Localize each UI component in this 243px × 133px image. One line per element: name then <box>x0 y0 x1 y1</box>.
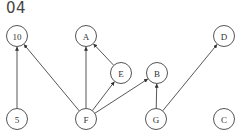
edge-G-to-B <box>156 84 157 109</box>
node-label: G <box>153 115 160 125</box>
node-label: C <box>221 115 227 125</box>
node-F: F <box>76 109 97 130</box>
node-D: D <box>214 26 235 47</box>
edge-F-to-B <box>95 79 148 113</box>
node-10: 10 <box>7 26 28 47</box>
node-label: B <box>154 69 160 79</box>
directed-graph: 10ADEB5FGC <box>0 0 243 133</box>
node-C: C <box>214 109 235 130</box>
node-label: F <box>83 115 88 125</box>
node-5: 5 <box>7 109 28 130</box>
node-label: 5 <box>15 115 20 125</box>
node-G: G <box>146 109 167 130</box>
node-label: 10 <box>13 32 23 42</box>
edge-G-to-D <box>163 45 217 111</box>
edge-E-to-A <box>94 44 114 65</box>
node-A: A <box>76 26 97 47</box>
node-label: A <box>83 32 90 42</box>
edge-F-to-10 <box>24 44 79 110</box>
node-B: B <box>147 63 168 84</box>
node-E: E <box>111 63 132 84</box>
node-label: E <box>118 69 124 79</box>
edge-F-to-E <box>92 82 114 111</box>
node-label: D <box>221 32 228 42</box>
nodes-layer: 10ADEB5FGC <box>7 26 235 130</box>
